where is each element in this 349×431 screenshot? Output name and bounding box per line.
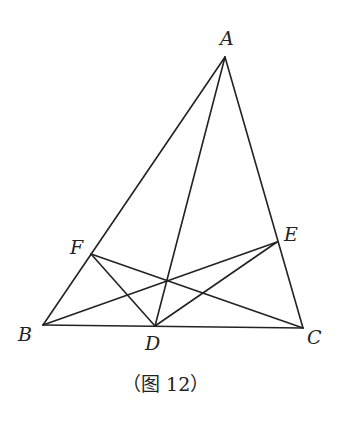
label-f: F — [69, 236, 84, 258]
label-d: D — [144, 332, 160, 354]
segments — [43, 57, 303, 328]
label-a: A — [218, 27, 234, 49]
point-labels: A B C D E F — [17, 27, 322, 354]
label-b: B — [17, 323, 32, 345]
figure-caption: （图 12） — [122, 373, 209, 395]
label-c: C — [307, 326, 322, 348]
segment-bc — [43, 325, 303, 328]
geometry-figure: A B C D E F （图 12） — [0, 0, 349, 431]
segment-ab — [43, 57, 225, 325]
segment-ac — [225, 57, 303, 328]
label-e: E — [283, 223, 298, 245]
segment-cf — [91, 254, 303, 328]
